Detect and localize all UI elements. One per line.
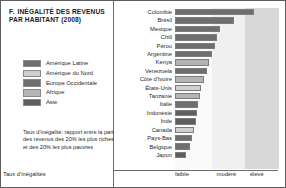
bar-row: Pérou — [175, 42, 279, 50]
legend-item-label: Europe Occidentale — [46, 80, 97, 87]
bar-row: Kenya — [175, 58, 279, 66]
bar-row: Tanzanie — [175, 92, 279, 100]
legend-item: Amérique Latine — [23, 59, 113, 68]
legend-item-label: Asie — [46, 99, 57, 106]
bar — [175, 59, 209, 65]
bar-row: Italie — [175, 100, 279, 108]
legend-note: Taux d'inégalité: rapport entre la part … — [23, 129, 115, 151]
bar-row: Chili — [175, 33, 279, 41]
bar — [175, 68, 207, 74]
bar-category-label: Venezuela — [145, 67, 172, 75]
bar — [175, 76, 204, 82]
bar-category-label: Japon — [156, 151, 172, 159]
legend-item-label: Amérique Latine — [46, 60, 88, 67]
legend: Amérique LatineAmérique du NordEurope Oc… — [23, 59, 113, 108]
bar-row: Inde — [175, 117, 279, 125]
bar-category-label: États-Unis — [145, 84, 172, 92]
bar — [175, 143, 190, 149]
bar-category-label: Argentine — [147, 50, 172, 58]
bar-row: Côte d'Ivoire — [175, 75, 279, 83]
bar — [175, 110, 197, 116]
bar-category-label: Mexique — [150, 25, 172, 33]
legend-item: Asie — [23, 98, 113, 107]
bar-row: Venezuela — [175, 67, 279, 75]
bar-row: Pays-Bas — [175, 134, 279, 142]
bar-row: Mexique — [175, 25, 279, 33]
bar-category-label: Chili — [161, 33, 172, 41]
bar-category-label: Pérou — [157, 42, 172, 50]
bar — [175, 135, 192, 141]
bar-category-label: Canada — [152, 126, 172, 134]
legend-swatch — [23, 70, 41, 77]
bar-category-label: Belgique — [149, 143, 172, 151]
x-axis-tick-label: modéré — [217, 171, 237, 177]
bar-category-label: Brésil — [158, 16, 173, 24]
legend-swatch — [23, 99, 41, 106]
legend-swatch — [23, 79, 41, 86]
bar-category-label: Pays-Bas — [147, 134, 172, 142]
bar — [175, 118, 196, 124]
bar — [175, 101, 198, 107]
bar-row: Colombie — [175, 8, 279, 16]
bar — [175, 9, 254, 15]
legend-item: Afrique — [23, 88, 113, 97]
bar-category-label: Indonésie — [147, 109, 172, 117]
legend-item: Amérique du Nord — [23, 69, 113, 78]
bar-row: Japon — [175, 151, 279, 159]
bar — [175, 127, 194, 133]
x-axis-tick-label: faible — [175, 171, 189, 177]
bar-category-label: Italie — [160, 100, 172, 108]
bar-row: Brésil — [175, 16, 279, 24]
x-axis-tick-label: élevé — [250, 171, 264, 177]
x-axis-caption: Taux d'inégalités — [3, 171, 46, 177]
bar — [175, 34, 217, 40]
bar-row: Argentine — [175, 50, 279, 58]
bar-series: ColombieBrésilMexiqueChiliPérouArgentine… — [175, 8, 279, 169]
bar — [175, 26, 220, 32]
plot-area: ColombieBrésilMexiqueChiliPérouArgentine… — [175, 8, 279, 169]
figure-number: F. — [9, 8, 14, 16]
left-panel: F.INÉGALITÉ DES REVENUS PAR HABITANT (20… — [1, 1, 114, 187]
legend-swatch — [23, 89, 41, 96]
bar-row: États-Unis — [175, 84, 279, 92]
bar-row: Belgique — [175, 143, 279, 151]
figure-inequality-income: F.INÉGALITÉ DES REVENUS PAR HABITANT (20… — [0, 0, 286, 188]
legend-item: Europe Occidentale — [23, 79, 113, 88]
bar — [175, 51, 212, 57]
chart-area: ColombieBrésilMexiqueChiliPérouArgentine… — [114, 1, 285, 187]
bar — [175, 17, 234, 23]
legend-item-label: Amérique du Nord — [46, 70, 93, 77]
bar-category-label: Côte d'Ivoire — [140, 75, 172, 83]
bar — [175, 43, 215, 49]
bar-category-label: Inde — [161, 117, 172, 125]
legend-swatch — [23, 60, 41, 67]
bar-row: Canada — [175, 126, 279, 134]
bar — [175, 152, 186, 158]
bar-row: Indonésie — [175, 109, 279, 117]
bar-category-label: Tanzanie — [149, 92, 172, 100]
bar — [175, 93, 200, 99]
bar-category-label: Kenya — [156, 58, 172, 66]
bar-category-label: Colombie — [148, 8, 173, 16]
figure-title-text: INÉGALITÉ DES REVENUS PAR HABITANT (2008… — [9, 8, 105, 23]
legend-item-label: Afrique — [46, 89, 64, 96]
figure-title: F.INÉGALITÉ DES REVENUS PAR HABITANT (20… — [9, 8, 111, 24]
bar — [175, 85, 201, 91]
